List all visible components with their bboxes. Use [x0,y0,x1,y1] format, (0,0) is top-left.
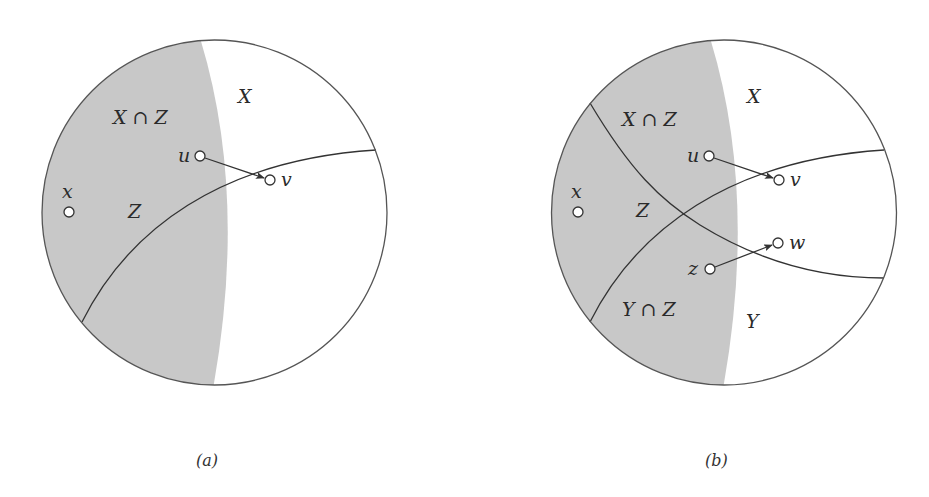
node-w [773,238,783,248]
shaded-region-z [0,0,228,497]
label-x-set: X [236,85,253,107]
node-w-label: w [789,231,805,253]
caption-b: (b) [705,451,728,470]
label-y-cap-z: Y ∩ Z [622,298,677,320]
label-x-cap-z: X ∩ Z [620,108,678,130]
node-u [195,151,205,161]
panel-a: X X ∩ Z Z u v x (a) [0,0,387,497]
node-v-label: v [281,168,292,190]
node-z [705,264,715,274]
node-x-label: x [62,180,73,202]
node-u-label: u [687,144,699,166]
shaded-region-z [510,0,738,497]
set-diagram-figure: X X ∩ Z Z u v x (a) X X ∩ Z Z Y ∩ Z Y [0,0,929,497]
node-x-label: x [571,180,582,202]
label-x-cap-z: X ∩ Z [111,106,169,128]
node-v-label: v [790,168,801,190]
label-y-set: Y [746,310,761,332]
label-x-set: X [745,85,762,107]
panel-b: X X ∩ Z Z Y ∩ Z Y u v x z w (b) [510,0,897,497]
label-z-set: Z [635,199,650,221]
node-v [774,175,784,185]
caption-a: (a) [196,451,218,470]
node-u-label: u [178,144,190,166]
node-v [265,175,275,185]
node-x [64,207,74,217]
node-x [573,207,583,217]
label-z-set: Z [127,200,142,222]
node-z-label: z [687,257,699,279]
node-u [704,151,714,161]
